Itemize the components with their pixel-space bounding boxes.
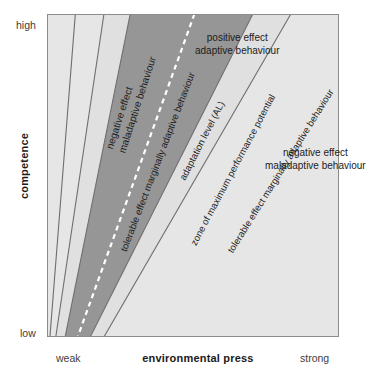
plot-area: positive effect adaptive behaviour negat…	[47, 14, 339, 337]
y-tick-high: high	[16, 19, 36, 31]
region-label-positive-line1: positive effect	[195, 32, 280, 45]
region-label-negative-right-line1: negative effect	[265, 147, 366, 160]
region-label-positive-line2: adaptive behaviour	[195, 45, 280, 58]
y-axis-title: competence	[18, 121, 30, 211]
x-tick-weak: weak	[56, 352, 81, 364]
region-label-positive: positive effect adaptive behaviour	[195, 32, 280, 57]
press-competence-diagram	[47, 14, 339, 337]
y-tick-low: low	[20, 327, 36, 339]
x-tick-strong: strong	[300, 352, 329, 364]
